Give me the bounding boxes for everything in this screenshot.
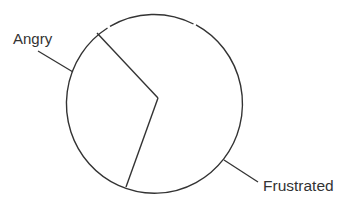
label-frustrated: Frustrated (263, 177, 334, 194)
leader-line-angry (38, 51, 73, 72)
pie-chart: Angry Frustrated (0, 0, 339, 209)
label-angry: Angry (13, 30, 53, 47)
leader-line-frustrated (224, 160, 258, 182)
